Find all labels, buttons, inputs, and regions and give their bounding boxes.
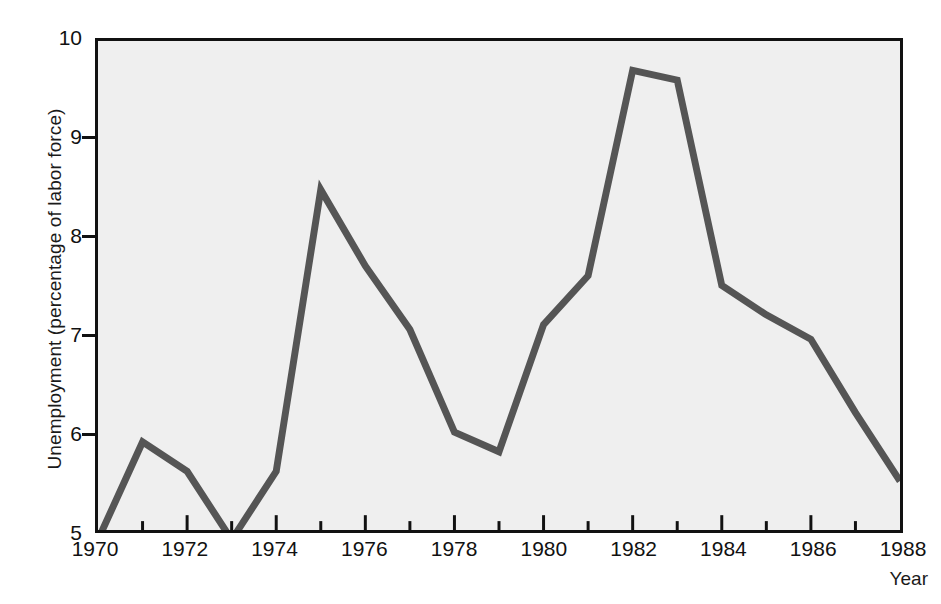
y-tick-label: 6 — [42, 423, 82, 444]
x-tick-label: 1974 — [230, 538, 320, 559]
y-tick-mark — [82, 235, 96, 238]
x-tick-label: 1982 — [589, 538, 679, 559]
y-tick-mark — [82, 433, 96, 436]
x-axis-tick-labels: 1970197219741976197819801982198419861988 — [0, 538, 941, 568]
y-tick-label: 7 — [42, 324, 82, 345]
x-tick-label: 1978 — [409, 538, 499, 559]
x-tick-label: 1986 — [768, 538, 858, 559]
plot-svg — [98, 41, 900, 530]
unemployment-line-chart: Unemployment (percentage of labor force)… — [0, 0, 941, 604]
x-tick-label: 1976 — [319, 538, 409, 559]
y-tick-label: 9 — [42, 126, 82, 147]
x-tick-label: 1984 — [678, 538, 768, 559]
x-tick-label: 1970 — [50, 538, 140, 559]
x-tick-label: 1980 — [499, 538, 589, 559]
y-tick-mark — [82, 334, 96, 337]
x-tick-label: 1988 — [858, 538, 941, 559]
plot-area — [95, 38, 903, 533]
y-tick-label: 8 — [42, 225, 82, 246]
data-line — [98, 70, 900, 530]
y-tick-label: 10 — [42, 27, 82, 48]
x-tick-label: 1972 — [140, 538, 230, 559]
x-axis-title: Year — [848, 568, 928, 590]
y-axis-tick-labels: 5678910 — [30, 0, 82, 604]
y-tick-mark — [82, 136, 96, 139]
